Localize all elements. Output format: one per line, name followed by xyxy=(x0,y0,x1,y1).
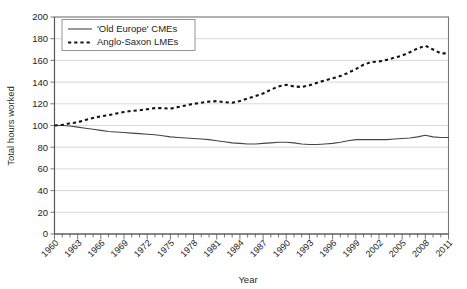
y-tick-label: 40 xyxy=(37,185,48,196)
x-tick-label: 1972 xyxy=(132,238,153,259)
x-tick-label: 1996 xyxy=(317,238,338,259)
x-tick-label: 1984 xyxy=(225,238,246,259)
x-tick-label: 2002 xyxy=(364,238,385,259)
x-tick-label: 1981 xyxy=(201,238,222,259)
x-tick-label: 1966 xyxy=(86,238,107,259)
x-axis-title: Year xyxy=(238,274,257,285)
y-tick-label: 180 xyxy=(32,33,48,44)
y-axis: 020406080100120140160180200 xyxy=(32,11,54,239)
y-tick-label: 80 xyxy=(37,142,48,153)
x-tick-label: 1999 xyxy=(340,238,361,259)
y-tick-label: 100 xyxy=(32,120,48,131)
x-tick-label: 2008 xyxy=(410,238,431,259)
y-axis-title: Total hours worked xyxy=(5,86,16,166)
x-tick-label: 1987 xyxy=(248,238,269,259)
chart-container: 020406080100120140160180200 196019631966… xyxy=(0,0,467,289)
chart-legend: 'Old Europe' CMEsAnglo-Saxon LMEs xyxy=(62,20,195,51)
y-tick-label: 140 xyxy=(32,77,48,88)
y-tick-label: 200 xyxy=(32,11,48,22)
y-tick-label: 60 xyxy=(37,163,48,174)
legend-label: Anglo-Saxon LMEs xyxy=(97,36,179,47)
x-tick-label: 2011 xyxy=(434,238,455,259)
x-tick-label: 1978 xyxy=(178,238,199,259)
x-tick-label: 1969 xyxy=(109,238,130,259)
y-tick-label: 120 xyxy=(32,98,48,109)
x-tick-label: 1963 xyxy=(62,238,83,259)
x-tick-label: 1975 xyxy=(155,238,176,259)
legend-label: 'Old Europe' CMEs xyxy=(97,23,177,34)
x-tick-label: 2005 xyxy=(387,238,408,259)
y-tick-label: 160 xyxy=(32,55,48,66)
x-tick-label: 1990 xyxy=(271,238,292,259)
x-tick-label: 1993 xyxy=(294,238,315,259)
hours-worked-line-chart: 020406080100120140160180200 196019631966… xyxy=(0,0,467,289)
y-tick-label: 0 xyxy=(43,228,48,239)
y-tick-label: 20 xyxy=(37,207,48,218)
x-tick-label: 1960 xyxy=(39,238,60,259)
x-axis: 1960196319661969197219751978198119841987… xyxy=(39,234,454,259)
